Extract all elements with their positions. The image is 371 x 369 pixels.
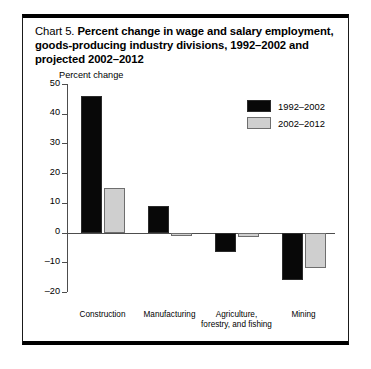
tick-mark xyxy=(62,84,67,85)
category-label: Agriculture, forestry, and fishing xyxy=(201,310,272,330)
chart-title: Chart 5. Percent change in wage and sala… xyxy=(35,24,335,67)
tick-label: –20 xyxy=(45,286,60,296)
chart-canvas: 50403020100–10–20 ConstructionManufactur… xyxy=(67,84,335,292)
tick-mark xyxy=(62,203,67,204)
bar xyxy=(148,206,169,233)
tick-label: 30 xyxy=(50,137,60,147)
y-axis-line xyxy=(67,84,68,292)
tick-mark xyxy=(62,173,67,174)
bar xyxy=(238,233,259,237)
tick-label: 0 xyxy=(55,226,60,236)
y-axis-label: Percent change xyxy=(59,70,123,80)
bar xyxy=(282,233,303,281)
chart-figure: Chart 5. Percent change in wage and sala… xyxy=(22,14,349,345)
tick-mark xyxy=(62,143,67,144)
tick-mark xyxy=(62,262,67,263)
category-label: Construction xyxy=(80,310,126,320)
tick-label: 40 xyxy=(50,107,60,117)
chart-title-text: Percent change in wage and salary employ… xyxy=(35,25,333,65)
tick-label: 10 xyxy=(50,196,60,206)
tick-mark xyxy=(62,292,67,293)
tick-mark xyxy=(62,114,67,115)
bar xyxy=(305,233,326,269)
bar xyxy=(215,233,236,252)
tick-label: 20 xyxy=(50,167,60,177)
chart-number: Chart 5. xyxy=(35,25,74,37)
bar xyxy=(171,233,192,236)
category-label: Manufacturing xyxy=(144,310,196,320)
tick-label: –10 xyxy=(45,256,60,266)
category-label: Mining xyxy=(291,310,315,320)
bar xyxy=(104,188,125,233)
bar xyxy=(81,96,102,233)
plot-area: Percent change 1992–2002 2002–2012 50403… xyxy=(35,70,338,342)
tick-label: 50 xyxy=(50,78,60,88)
